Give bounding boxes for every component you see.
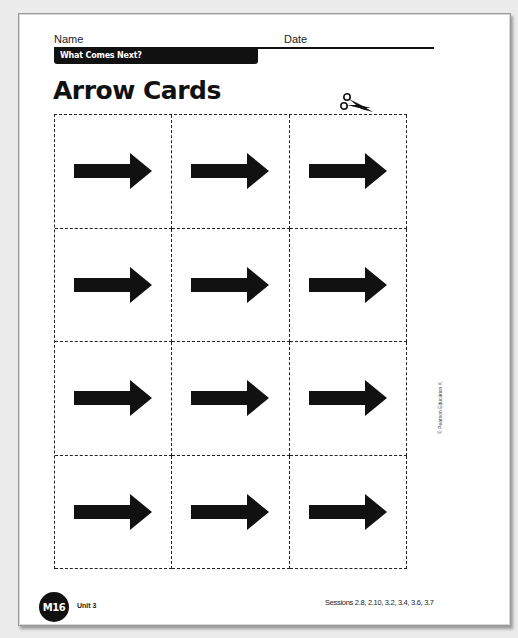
arrow-card [172,229,289,343]
arrow-card [290,342,407,456]
date-label: Date [284,33,307,45]
right-arrow-icon [74,494,152,530]
right-arrow-icon [191,267,269,303]
arrow-card [290,229,407,343]
unit-label: Unit 3 [77,602,96,609]
right-arrow-icon [74,267,152,303]
right-arrow-icon [74,380,152,416]
arrow-card [55,456,172,570]
arrow-card [290,456,407,570]
name-label: Name [54,33,83,45]
arrow-card [172,342,289,456]
right-arrow-icon [309,380,387,416]
arrow-card [172,456,289,570]
right-arrow-icon [309,494,387,530]
arrow-card [290,115,407,229]
page-number-badge: M16 [39,592,69,622]
right-arrow-icon [309,153,387,189]
arrow-card-grid [54,114,407,569]
right-arrow-icon [191,494,269,530]
copyright-notice: © Pearson Education K [437,382,443,434]
topic-bar: What Comes Next? [54,48,258,64]
topic-text: What Comes Next? [60,51,142,60]
page-title: Arrow Cards [53,76,221,105]
scissors-icon [339,92,375,116]
right-arrow-icon [191,153,269,189]
arrow-card [55,229,172,343]
right-arrow-icon [191,380,269,416]
arrow-card [55,342,172,456]
right-arrow-icon [74,153,152,189]
arrow-card [172,115,289,229]
worksheet-page: Name Date What Comes Next? Arrow Cards ©… [18,13,511,626]
arrow-card [55,115,172,229]
sessions-label: Sessions 2.8, 2.10, 3.2, 3.4, 3.6, 3.7 [325,598,434,607]
right-arrow-icon [309,267,387,303]
